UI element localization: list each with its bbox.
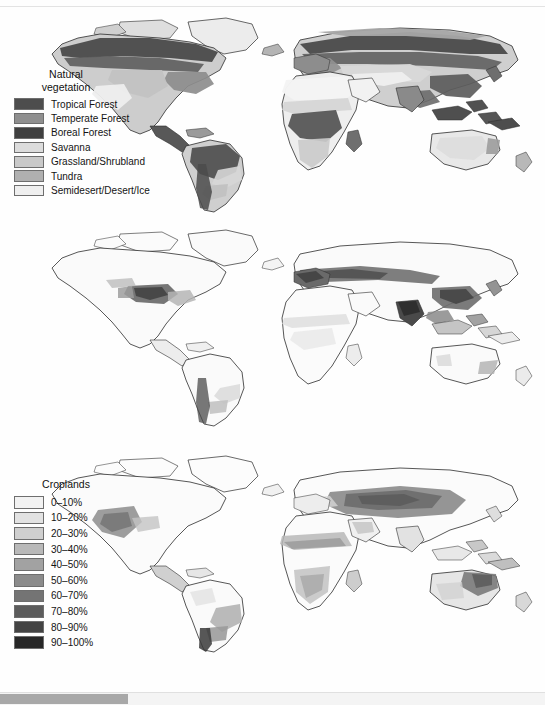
legend-croplands: Croplands 0–10%10–20%20–30%30–40%40–50%5…	[14, 478, 112, 650]
legend-row: Temperate Forest	[14, 111, 150, 125]
legend-swatch	[14, 113, 44, 125]
map-stage-croplands	[0, 228, 545, 446]
legend-title-natural-vegetation: Natural vegetation	[20, 68, 112, 93]
legend-label: 50–60%	[51, 575, 88, 586]
legend-swatch	[14, 512, 44, 525]
legend-label: 70–80%	[51, 606, 88, 617]
world-map-croplands	[0, 228, 545, 446]
legend-row: Tropical Forest	[14, 97, 150, 111]
legend-swatch	[14, 636, 44, 649]
legend-row: 60–70%	[14, 588, 112, 604]
legend-swatch	[14, 527, 44, 540]
legend-label: Semidesert/Desert/Ice	[51, 185, 150, 196]
horizontal-scrollbar-track[interactable]	[128, 694, 545, 704]
legend-row: Tundra	[14, 169, 150, 183]
legend-label: 40–50%	[51, 559, 88, 570]
legend-label: 0–10%	[51, 497, 82, 508]
legend-swatch	[14, 496, 44, 509]
legend-row: 0–10%	[14, 495, 112, 511]
legend-items-natural-vegetation: Tropical ForestTemperate ForestBoreal Fo…	[14, 97, 150, 198]
legend-swatch	[14, 185, 44, 197]
legend-row: 40–50%	[14, 557, 112, 573]
legend-swatch	[14, 127, 44, 139]
vegetation-eurasia-africa	[262, 28, 532, 172]
legend-label: 30–40%	[51, 544, 88, 555]
legend-row: 50–60%	[14, 572, 112, 588]
figure-page: Natural vegetation Tropical ForestTemper…	[0, 0, 545, 705]
legend-swatch	[14, 543, 44, 556]
legend-label: 90–100%	[51, 637, 93, 648]
page-top-rule	[0, 6, 545, 7]
legend-swatch	[14, 621, 44, 634]
legend-swatch	[14, 98, 44, 110]
legend-row: 90–100%	[14, 635, 112, 651]
legend-natural-vegetation: Natural vegetation Tropical ForestTemper…	[14, 68, 150, 198]
legend-row: Savanna	[14, 140, 150, 154]
legend-row: 20–30%	[14, 526, 112, 542]
legend-items-croplands: 0–10%10–20%20–30%30–40%40–50%50–60%60–70…	[14, 495, 112, 651]
legend-swatch	[14, 558, 44, 571]
legend-label: 80–90%	[51, 622, 88, 633]
legend-label: Tundra	[51, 171, 82, 182]
legend-title-line-1: Natural	[49, 68, 83, 80]
legend-label: Boreal Forest	[51, 127, 111, 138]
legend-label: Savanna	[51, 142, 90, 153]
legend-label: 60–70%	[51, 590, 88, 601]
legend-swatch	[14, 142, 44, 154]
map-panel-natural-vegetation: Natural vegetation Tropical ForestTemper…	[0, 14, 545, 224]
legend-swatch	[14, 574, 44, 587]
croplands-eurasia-africa	[262, 242, 532, 386]
horizontal-scrollbar[interactable]	[0, 692, 545, 705]
legend-title-line-2: vegetation	[42, 81, 90, 93]
legend-row: Boreal Forest	[14, 126, 150, 140]
legend-swatch	[14, 590, 44, 603]
legend-swatch	[14, 605, 44, 618]
legend-row: Grassland/Shrubland	[14, 155, 150, 169]
legend-row: Semidesert/Desert/Ice	[14, 183, 150, 197]
pastures-eurasia-africa	[262, 468, 532, 612]
legend-label: Tropical Forest	[51, 99, 117, 110]
legend-label: 10–20%	[51, 512, 88, 523]
croplands-americas	[52, 230, 258, 426]
legend-label: 20–30%	[51, 528, 88, 539]
map-panel-croplands: Croplands 0–10%10–20%20–30%30–40%40–50%5…	[0, 228, 545, 446]
legend-swatch	[14, 156, 44, 168]
legend-swatch	[14, 170, 44, 182]
legend-label: Grassland/Shrubland	[51, 156, 145, 167]
legend-title-line-1: Croplands	[42, 478, 90, 490]
legend-row: 30–40%	[14, 541, 112, 557]
legend-title-croplands: Croplands	[20, 478, 112, 491]
legend-row: 10–20%	[14, 510, 112, 526]
legend-label: Temperate Forest	[51, 113, 129, 124]
legend-row: 80–90%	[14, 619, 112, 635]
legend-row: 70–80%	[14, 604, 112, 620]
horizontal-scrollbar-thumb[interactable]	[0, 694, 128, 704]
